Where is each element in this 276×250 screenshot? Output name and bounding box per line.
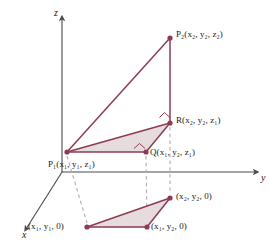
label-point-x1y1-0: (x₁, y₁, 0) bbox=[28, 222, 64, 231]
dot-x1y2-0 bbox=[144, 224, 149, 229]
dot-p2 bbox=[167, 35, 172, 40]
label-point-p2: P₂(x₂, y₂, z₂) bbox=[176, 30, 223, 39]
label-point-r: R(x₂, y₂, z₁) bbox=[176, 116, 221, 125]
dot-q bbox=[143, 149, 148, 154]
dot-r bbox=[167, 120, 172, 125]
dot-x2y2-0 bbox=[167, 195, 172, 200]
dot-p1 bbox=[64, 149, 69, 154]
dot-x1y1-0 bbox=[84, 224, 89, 229]
right-angle-mark-r bbox=[160, 113, 171, 118]
label-point-q: Q(x₁, y₂, z₁) bbox=[150, 148, 195, 157]
diagram-canvas bbox=[0, 0, 276, 250]
label-point-x2y2-0: (x₂, y₂, 0) bbox=[176, 192, 212, 201]
label-point-x1y2-0: (x₁, y₂, 0) bbox=[151, 222, 187, 231]
x-axis-label: x bbox=[22, 230, 26, 240]
diagram-3d-distance: z y x P₂(x₂, y₂, z₂) R(x₂, y₂, z₁) Q(x₁,… bbox=[0, 0, 276, 250]
y-axis-label: y bbox=[261, 173, 265, 183]
axis-group bbox=[26, 18, 256, 229]
label-point-p1: P₁(x₁, y₁, z₁) bbox=[48, 160, 95, 169]
z-axis-label: z bbox=[54, 8, 58, 18]
